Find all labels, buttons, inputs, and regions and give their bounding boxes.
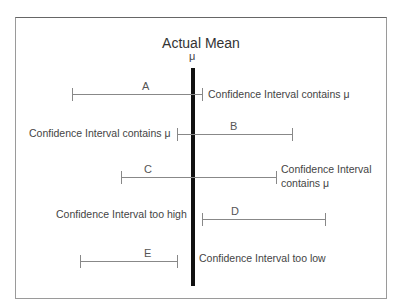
interval-e-upper-bound <box>177 255 178 268</box>
interval-b-upper-bound <box>292 128 293 141</box>
interval-c-upper-bound <box>276 171 277 184</box>
interval-e: E <box>80 261 178 262</box>
interval-d-note: Confidence Interval too high <box>56 208 187 221</box>
interval-c: C <box>121 177 277 178</box>
interval-b-lower-bound <box>177 128 178 141</box>
interval-c-note-line1: Confidence Interval <box>281 163 371 176</box>
interval-e-note: Confidence Interval too low <box>199 252 326 265</box>
interval-b-label: B <box>230 120 237 132</box>
interval-e-lower-bound <box>80 255 81 268</box>
interval-c-label: C <box>144 163 152 175</box>
interval-b: B <box>177 134 293 135</box>
interval-d-label: D <box>231 205 239 217</box>
diagram-title: Actual Mean <box>0 35 402 51</box>
interval-a-upper-bound <box>202 88 203 101</box>
interval-d: D <box>202 219 326 220</box>
cropped-caption-fragment <box>0 0 402 4</box>
interval-a-lower-bound <box>72 88 73 101</box>
interval-a-label: A <box>142 80 149 92</box>
mean-symbol: μ <box>189 50 195 62</box>
interval-c-lower-bound <box>121 171 122 184</box>
interval-d-upper-bound <box>325 213 326 226</box>
interval-a-note: Confidence Interval contains μ <box>208 88 349 101</box>
interval-a: A <box>72 94 203 95</box>
interval-d-lower-bound <box>202 213 203 226</box>
interval-c-note-line2: contains μ <box>281 177 329 190</box>
interval-e-label: E <box>144 247 151 259</box>
interval-b-note: Confidence Interval contains μ <box>29 127 170 140</box>
